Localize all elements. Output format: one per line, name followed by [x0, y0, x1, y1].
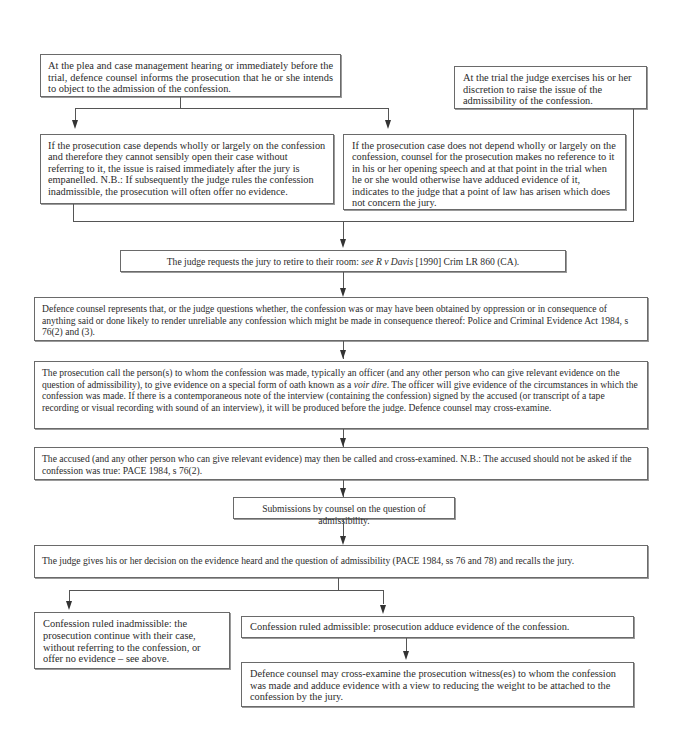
voir-dire-term: voir dire: [354, 379, 387, 390]
node-plea-hearing-text: At the plea and case management hearing …: [48, 60, 333, 94]
arrow-down-icon: [340, 438, 346, 447]
node-not-depend-text: If the prosecution case does not depend …: [352, 140, 616, 208]
arrow-down-icon: [340, 350, 346, 359]
node-admissible-text: Confession ruled admissible: prosecution…: [250, 621, 569, 632]
arrow-down-icon: [340, 239, 346, 248]
connector: [73, 221, 633, 222]
node-judge-discretion: At the trial the judge exercises his or …: [454, 66, 647, 109]
node-plea-hearing: At the plea and case management hearing …: [40, 54, 341, 97]
node-cross-examine: Defence counsel may cross-examine the pr…: [241, 662, 634, 707]
arrow-down-icon: [380, 605, 386, 614]
node-depends-wholly-text: If the prosecution case depends wholly o…: [48, 140, 325, 197]
node-accused-called-text: The accused (and any other person who ca…: [42, 453, 632, 476]
node-not-depend: If the prosecution case does not depend …: [343, 134, 626, 210]
arrow-down-icon: [66, 601, 72, 610]
arrow-down-icon: [340, 288, 346, 297]
arrow-down-icon: [403, 651, 409, 660]
node-admissible: Confession ruled admissible: prosecution…: [241, 616, 634, 638]
node-judge-decision: The judge gives his or her decision on t…: [34, 545, 648, 578]
node-accused-called: The accused (and any other person who ca…: [34, 447, 648, 480]
arrow-down-icon: [340, 536, 346, 545]
arrow-down-icon: [340, 488, 346, 497]
arrow-down-icon: [385, 120, 391, 129]
node-cross-examine-text: Defence counsel may cross-examine the pr…: [250, 668, 616, 702]
connector: [69, 590, 383, 591]
node-judge-discretion-text: At the trial the judge exercises his or …: [463, 72, 632, 106]
node-defence-represents-text: Defence counsel represents that, or the …: [42, 303, 628, 337]
case-citation: R v Davis: [376, 256, 413, 267]
connector: [343, 519, 344, 537]
jury-retire-see: see: [361, 256, 373, 267]
node-depends-wholly: If the prosecution case depends wholly o…: [40, 134, 334, 204]
connector: [73, 204, 74, 222]
node-jury-retire: The judge requests the jury to retire to…: [120, 250, 566, 272]
node-judge-decision-text: The judge gives his or her decision on t…: [42, 555, 574, 566]
jury-retire-citation: [1990] Crim LR 860 (CA).: [413, 256, 519, 267]
connector: [383, 590, 384, 604]
arrow-down-icon: [72, 120, 78, 129]
connector: [75, 108, 388, 109]
node-submissions-text: Submissions by counsel on the question o…: [262, 503, 426, 526]
node-voir-dire: The prosecution call the person(s) to wh…: [34, 361, 648, 429]
connector: [343, 221, 344, 241]
node-defence-represents: Defence counsel represents that, or the …: [34, 297, 648, 341]
jury-retire-text: The judge requests the jury to retire to…: [167, 256, 361, 267]
node-inadmissible-text: Confession ruled inadmissible: the prose…: [43, 618, 201, 664]
connector: [633, 109, 634, 222]
node-submissions: Submissions by counsel on the question o…: [233, 497, 455, 519]
node-inadmissible: Confession ruled inadmissible: the prose…: [34, 612, 230, 669]
